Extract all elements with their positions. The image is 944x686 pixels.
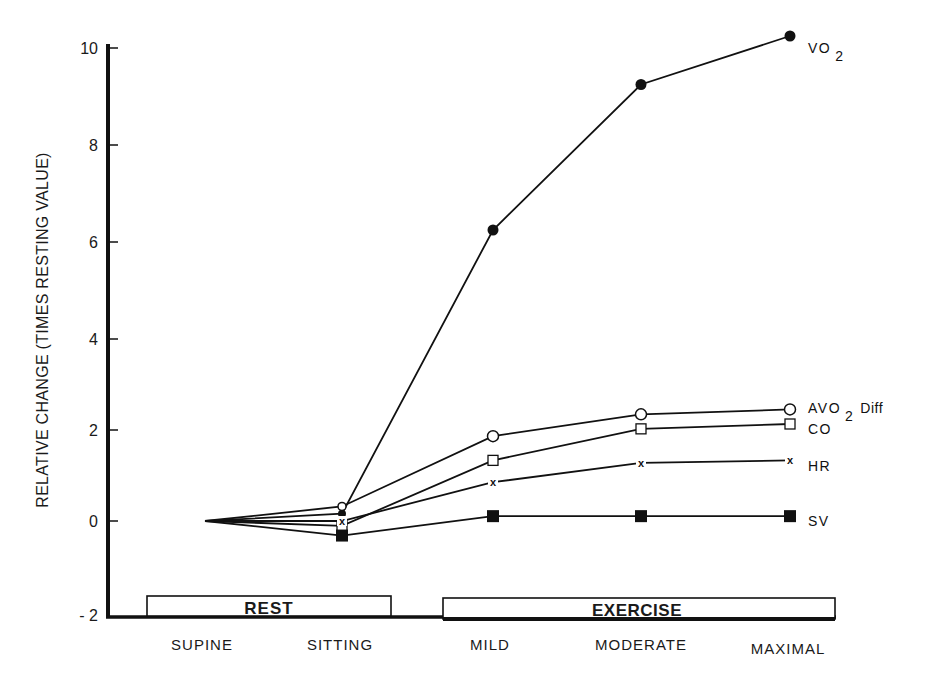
group-exercise: EXERCISE	[443, 598, 835, 620]
y-tick: 4	[89, 331, 118, 348]
axes	[106, 44, 836, 618]
y-tick: 2	[89, 422, 118, 439]
series-layer: xxxx	[205, 31, 796, 542]
group-label-rest: REST	[244, 599, 293, 618]
data-point	[635, 510, 647, 522]
y-tick: 8	[89, 137, 118, 154]
x-tick-label: SITTING	[307, 636, 373, 653]
data-point	[488, 431, 499, 442]
data-point: x	[638, 457, 645, 469]
y-tick-label: 10	[80, 40, 98, 57]
data-point: x	[490, 476, 497, 488]
y-tick-label: 8	[89, 137, 98, 154]
group-rest: REST	[147, 596, 391, 618]
data-point: x	[339, 515, 346, 527]
data-point	[336, 530, 348, 542]
y-tick: 0	[89, 513, 118, 530]
series-label: HR	[808, 458, 831, 474]
y-tick: - 2	[79, 607, 98, 624]
line-chart: RELATIVE CHANGE (TIMES RESTING VALUE) 10…	[0, 0, 944, 686]
data-point	[488, 225, 499, 236]
group-label-exercise: EXERCISE	[592, 601, 682, 620]
data-point	[636, 409, 647, 420]
series-label: CO	[808, 421, 832, 437]
data-point	[338, 502, 346, 510]
data-point: x	[787, 454, 794, 466]
data-point	[636, 424, 646, 434]
x-tick-label: MODERATE	[595, 636, 687, 653]
series-label: SV	[808, 513, 830, 529]
y-tick-label: 0	[89, 513, 98, 530]
y-axis-label: RELATIVE CHANGE (TIMES RESTING VALUE)	[34, 152, 51, 507]
y-tick: 6	[89, 234, 118, 251]
y-ticks: 10 8 6 4 2 0 - 2	[79, 40, 118, 624]
x-tick-label: MILD	[470, 636, 510, 653]
y-tick-label: - 2	[79, 607, 98, 624]
series-labels: VO2AVO2DiffCOHRSV	[808, 40, 883, 529]
series-label: VO2	[808, 40, 845, 64]
data-point	[487, 510, 499, 522]
series-vo2	[205, 31, 796, 522]
data-point	[785, 404, 796, 415]
data-point	[636, 79, 647, 90]
y-tick-label: 4	[89, 331, 98, 348]
x-tick-label: SUPINE	[171, 636, 233, 653]
y-tick-label: 2	[89, 422, 98, 439]
x-tick-label: MAXIMAL	[751, 640, 826, 657]
data-point	[488, 455, 498, 465]
data-point	[785, 419, 795, 429]
data-point	[785, 31, 796, 42]
x-tick-labels: SUPINE SITTING MILD MODERATE MAXIMAL	[171, 636, 825, 657]
series-sv	[205, 510, 796, 541]
y-tick: 10	[80, 40, 118, 57]
data-point	[784, 510, 796, 522]
y-tick-label: 6	[89, 234, 98, 251]
